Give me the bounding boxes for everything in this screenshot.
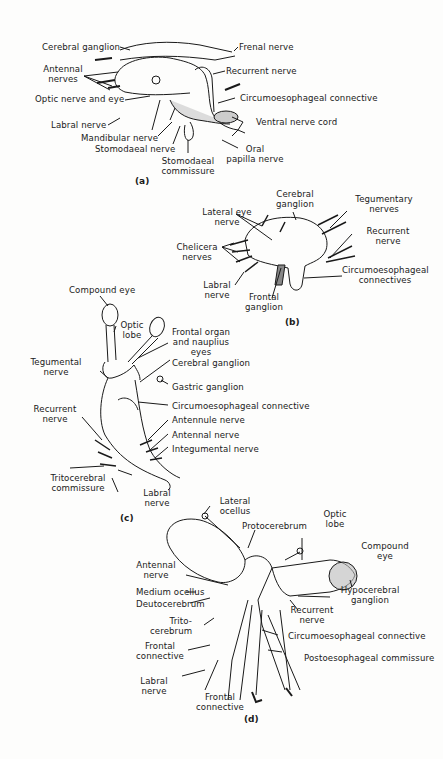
label-b-chelicera-nerves: Cheliceranerves [173,242,221,262]
label-c-tegumental-nerve: Tegumentalnerve [28,357,84,377]
label-a-circumoesophageal-connective: Circumoesophageal connective [240,93,378,103]
label-c-labral-nerve: Labralnerve [142,488,172,508]
label-c-cerebral-ganglion: Cerebral ganglion [172,358,250,368]
label-a-ventral-nerve-cord: Ventral nerve cord [256,117,337,127]
label-b-tegumentary-nerves: Tegumentarynerves [354,194,414,214]
nervous-system-illustrations [0,0,443,759]
label-a-stomodaeal-nerve: Stomodaeal nerve [95,144,175,154]
panel-tag-d: (d) [244,714,259,724]
label-b-cerebral-ganglion: Cerebralganglion [272,189,318,209]
label-d-hypocerebral-ganglion: Hypocerebralganglion [338,585,402,605]
label-a-antennal-nerves: Antennalnerves [42,64,84,84]
label-b-labral-nerve: Labralnerve [200,280,234,300]
label-c-tritocerebral-commissure: Tritocerebralcommissure [48,473,108,493]
label-a-mandibular-nerve: Mandibular nerve [81,133,158,143]
label-a-stomodaeal-commissure: Stomodaealcommissure [160,156,216,176]
label-d-medium-ocellus: Medium ocellus [136,587,204,597]
panel-tag-a: (a) [135,176,149,186]
panel-tag-c: (c) [120,513,134,523]
label-a-frenal-nerve: Frenal nerve [239,42,294,52]
label-c-antennal-nerve: Antennal nerve [172,430,239,440]
label-d-antennal-nerve: Antennalnerve [132,560,180,580]
label-d-protocerebrum: Protocerebrum [242,521,307,531]
label-c-optic-lobe: Opticlobe [117,320,147,340]
label-c-recurrent-nerve: Recurrentnerve [32,404,78,424]
label-b-lateral-eye-nerve: Lateral eyenerve [200,207,254,227]
label-d-deutocerebrum: Deutocerebrum [136,599,205,609]
label-d-frontal-connective: Frontalconnective [133,641,187,661]
label-a-oral-papilla-nerve: Oralpapilla nerve [220,144,290,164]
label-d-lateral-ocellus: Lateralocellus [217,496,253,516]
label-a-recurrent-nerve: Recurrent nerve [226,66,297,76]
panel-tag-b: (b) [285,317,300,327]
label-c-frontal-organ-nauplius-eyes: Frontal organand naupliuseyes [168,327,234,357]
label-a-labral-nerve: Labral nerve [51,120,106,130]
label-c-compound-eye: Compound eye [69,285,135,295]
label-d-postoesophageal-commissure: Postoesophageal commissure [304,653,434,663]
label-d-tritocerebrum: Trito-cerebrum [150,616,192,636]
label-d-frontal-connective-lower: Frontalconnective [193,692,247,712]
label-b-recurrent-nerve: Recurrentnerve [365,226,411,246]
label-d-compound-eye: Compoundeye [360,541,410,561]
label-d-optic-lobe: Opticlobe [320,509,350,529]
label-c-gastric-ganglion: Gastric ganglion [172,382,244,392]
label-c-integumental-nerve: Integumental nerve [172,444,259,454]
label-d-circumoesophageal-connective: Circumoesophageal connective [288,631,426,641]
label-d-recurrent-nerve: Recurrentnerve [289,605,335,625]
label-a-cerebral-ganglion: Cerebral ganglion [42,42,120,52]
label-c-antennule-nerve: Antennule nerve [172,415,245,425]
label-d-labral-nerve: Labralnerve [138,676,170,696]
label-b-frontal-ganglion: Frontalganglion [244,292,284,312]
label-a-optic-nerve-and-eye: Optic nerve and eye [35,94,124,104]
label-b-circumoesophageal-connectives: Circumoesophagealconnectives [342,265,428,285]
label-c-circumoesophageal-connective: Circumoesophageal connective [172,401,310,411]
